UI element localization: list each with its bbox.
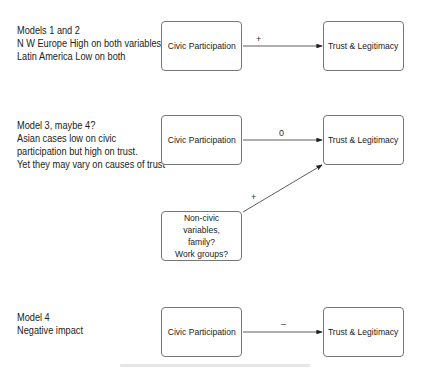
model3-noncivic-edge-label: + — [251, 192, 256, 202]
box-label: Civic Participation — [168, 326, 236, 338]
model3-civic-participation-box: Civic Participation — [161, 115, 242, 165]
box-label: Non-civic variables, family? Work groups… — [166, 212, 237, 260]
model12-trust-box: Trust & Legitimacy — [323, 21, 404, 71]
box-label: Trust & Legitimacy — [328, 326, 398, 338]
edge-model3-noncivic — [243, 165, 322, 212]
model12-note: Models 1 and 2 N W Europe High on both v… — [17, 24, 161, 63]
model4-trust-box: Trust & Legitimacy — [323, 307, 404, 357]
model12-edge-label: + — [256, 34, 261, 44]
model4-note: Model 4 Negative impact — [17, 311, 83, 337]
faint-caption-line — [120, 364, 310, 367]
box-label: Civic Participation — [168, 40, 236, 52]
model3-trust-box: Trust & Legitimacy — [323, 115, 404, 165]
box-label: Trust & Legitimacy — [328, 40, 398, 52]
box-label: Civic Participation — [168, 134, 236, 146]
model3-noncivic-box: Non-civic variables, family? Work groups… — [161, 211, 242, 261]
model4-civic-participation-box: Civic Participation — [161, 307, 242, 357]
model3-edge-label: 0 — [279, 128, 284, 138]
box-label: Trust & Legitimacy — [328, 134, 398, 146]
model4-edge-label: – — [281, 319, 286, 329]
model3-note: Model 3, maybe 4? Asian cases low on civ… — [17, 119, 165, 171]
model12-civic-participation-box: Civic Participation — [161, 21, 242, 71]
